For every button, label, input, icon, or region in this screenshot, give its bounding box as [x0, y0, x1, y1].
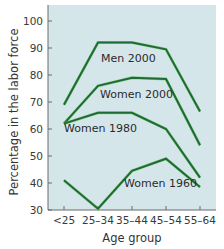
series-label: Women 1960: [124, 177, 197, 190]
x-tick-label: 35–44: [116, 214, 148, 226]
y-tick-label: 60: [30, 123, 43, 135]
x-tick-label: 45–54: [150, 214, 182, 226]
y-tick-label: 100: [23, 15, 43, 27]
x-tick-label: 55–64: [184, 214, 216, 226]
x-tick-label: <25: [53, 214, 75, 226]
y-tick-label: 90: [30, 42, 43, 54]
series-label: Women 1980: [64, 122, 137, 135]
series-label: Men 2000: [101, 52, 156, 65]
y-axis: 30405060708090100: [23, 5, 52, 216]
series-label: Women 2000: [100, 88, 173, 101]
y-tick-label: 80: [30, 69, 43, 81]
y-axis-title: Percentage in the labor force: [7, 29, 21, 196]
y-tick-label: 30: [30, 204, 43, 216]
y-tick-label: 70: [30, 96, 43, 108]
x-axis-title: Age group: [102, 231, 161, 245]
y-tick-label: 40: [30, 177, 43, 189]
y-tick-label: 50: [30, 150, 43, 162]
x-tick-label: 25–34: [82, 214, 114, 226]
labor-force-chart: 30405060708090100 <2525–3435–4445–5455–6…: [0, 0, 224, 249]
